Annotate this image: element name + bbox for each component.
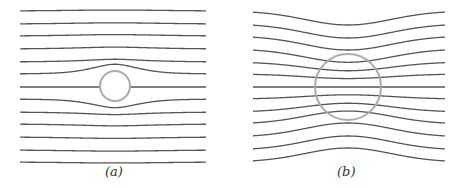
field-line (253, 136, 445, 149)
field-line (20, 162, 206, 163)
field-line (20, 59, 206, 62)
field-lines-figure (0, 0, 464, 188)
field-line (20, 124, 206, 126)
field-line (20, 150, 206, 151)
field-line (253, 111, 445, 123)
field-line (253, 148, 445, 161)
field-line (253, 123, 445, 136)
field-line (20, 47, 206, 49)
caption-b: (b) (337, 164, 355, 179)
caption-a: (a) (105, 164, 123, 179)
field-line (253, 95, 445, 99)
panel-b (253, 12, 445, 161)
field-line (253, 12, 445, 25)
field-line (20, 112, 206, 114)
field-line (253, 74, 445, 78)
sphere-a (100, 71, 130, 101)
field-line (253, 63, 445, 71)
field-line (20, 23, 206, 24)
field-line (20, 10, 206, 11)
field-line (253, 25, 445, 38)
field-line (253, 50, 445, 62)
field-line (20, 137, 206, 138)
field-line (20, 35, 206, 36)
panel-a (20, 10, 206, 163)
field-line (253, 103, 445, 111)
field-line (253, 37, 445, 50)
